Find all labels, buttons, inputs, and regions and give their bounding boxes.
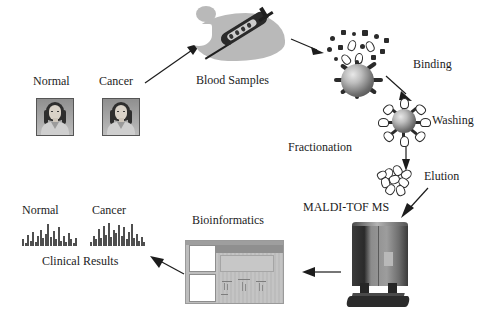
- spectrum-label-cancer: Cancer: [92, 204, 126, 216]
- mass-spectrum-icon-cancer: [90, 222, 146, 246]
- window-side-panel: [186, 241, 216, 303]
- window-plot-pane: [220, 255, 274, 272]
- blood-drop-splash: [196, 6, 216, 22]
- patient-label-normal: Normal: [33, 75, 70, 87]
- window-list-pane-bottom: [189, 274, 216, 302]
- elution-label: Elution: [424, 170, 459, 182]
- spectrum-peak: [75, 238, 77, 246]
- washing-label: Washing: [432, 114, 474, 126]
- arrow-blood-to-binding: [291, 36, 331, 60]
- binding-label: Binding: [413, 58, 452, 70]
- patient-portrait-icon-normal: [36, 98, 74, 136]
- patient-portrait-icon-cancer: [102, 98, 140, 136]
- spectrum-peak: [143, 242, 145, 246]
- workflow-diagram: Normal Cancer Blood Samples: [0, 0, 496, 325]
- window-list-pane-top: [189, 245, 216, 272]
- bioinformatics-label: Bioinformatics: [192, 214, 264, 226]
- blood-drop-notch: [186, 24, 212, 46]
- blood-samples-label: Blood Samples: [196, 74, 269, 86]
- arrow-elution-to-maldi: [398, 188, 434, 222]
- mass-spectrum-icon-normal: [22, 222, 78, 246]
- software-window-icon: [185, 240, 284, 304]
- fractionation-label: Fractionation: [288, 141, 352, 153]
- maldi-tof-ms-label: MALDI-TOF MS: [303, 201, 389, 213]
- clinical-results-label: Clinical Results: [42, 255, 118, 267]
- spectrum-label-normal: Normal: [22, 204, 59, 216]
- patient-label-cancer: Cancer: [99, 75, 133, 87]
- arrow-bioinformatics-to-results: [144, 255, 188, 277]
- arrow-maldi-to-bioinformatics: [297, 266, 345, 282]
